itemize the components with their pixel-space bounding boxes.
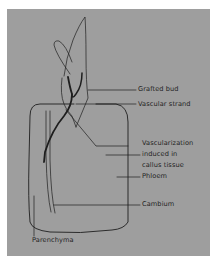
label-vascular-strand: Vascular strand [138,101,191,109]
label-parenchyma: Parenchyma [32,237,74,245]
label-vascularization-3: callus tissue [142,162,184,170]
graft-diagram [0,0,219,267]
phloem-line [50,111,55,213]
label-cambium: Cambium [142,201,174,209]
label-phloem: Phloem [142,173,167,181]
label-grafted-bud: Grafted bud [138,86,179,94]
label-vascularization-2: induced in [142,151,177,159]
vascular-strand-upper [72,73,82,97]
graft-wedge [66,110,128,146]
bud-back-lobe [54,41,72,74]
vascular-strand [44,77,72,162]
label-vascularization-1: Vascularization [142,140,193,148]
stock-outline [29,104,128,233]
